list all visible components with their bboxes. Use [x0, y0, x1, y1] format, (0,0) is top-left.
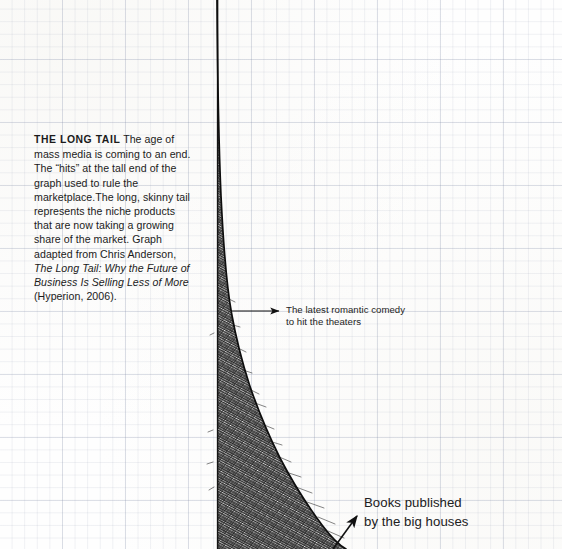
- callout-label-hits: The latest romantic comedy to hit the th…: [286, 304, 405, 329]
- callout-label-books: Books published by the big houses: [364, 494, 469, 531]
- caption-book-title: The Long Tail: Why the Future of Busines…: [34, 262, 190, 288]
- figure-canvas: THE LONG TAIL The age of mass media is c…: [0, 0, 562, 549]
- callout-arrow-books: [333, 516, 357, 549]
- caption-lead: THE LONG TAIL: [34, 134, 120, 145]
- caption-block: THE LONG TAIL The age of mass media is c…: [34, 132, 192, 303]
- caption-body-3: (Hyperion, 2006).: [34, 290, 117, 302]
